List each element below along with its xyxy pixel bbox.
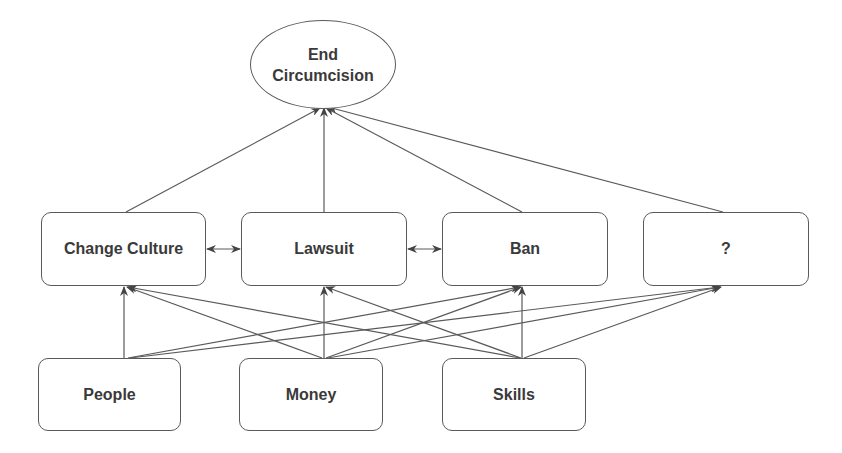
- edge-change-culture-goal: [126, 108, 320, 212]
- edge-skills-unknown: [524, 287, 721, 358]
- edge-unknown-goal: [328, 107, 723, 212]
- edge-money-change-culture: [127, 287, 322, 358]
- goal-label-line2: Circumcision: [272, 65, 373, 86]
- resource-node-skills: Skills: [442, 358, 586, 431]
- strategy-label: ?: [721, 240, 731, 258]
- resource-label: Skills: [493, 386, 535, 404]
- goal-node-end-circumcision: End Circumcision: [250, 20, 396, 109]
- strategy-node-ban: Ban: [442, 212, 608, 286]
- edge-money-unknown: [328, 287, 720, 358]
- resource-node-money: Money: [239, 358, 383, 431]
- diagram-canvas: End Circumcision Change Culture Lawsuit …: [0, 0, 842, 453]
- strategy-label: Change Culture: [64, 240, 183, 258]
- strategy-node-unknown: ?: [643, 212, 809, 286]
- strategy-node-change-culture: Change Culture: [41, 212, 206, 286]
- strategy-node-lawsuit: Lawsuit: [241, 212, 407, 286]
- goal-label-line1: End: [272, 44, 373, 65]
- resource-label: People: [83, 386, 135, 404]
- strategy-label: Lawsuit: [294, 240, 354, 258]
- strategy-label: Ban: [510, 240, 540, 258]
- resource-label: Money: [286, 386, 337, 404]
- resource-node-people: People: [38, 358, 181, 431]
- edge-ban-goal: [326, 108, 522, 212]
